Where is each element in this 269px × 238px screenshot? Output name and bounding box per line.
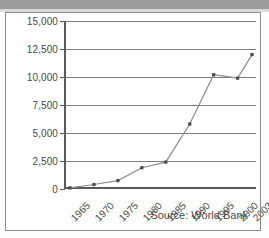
- chart-data-point: [236, 77, 239, 80]
- chart-y-tick-label: 15,000: [27, 16, 58, 27]
- chart-plot-area: 02,5005,0007,50010,00012,50015,000 19651…: [64, 21, 256, 189]
- chart-y-tick-label: 12,500: [27, 44, 58, 55]
- chart-figure-box: 02,5005,0007,50010,00012,50015,000 19651…: [5, 12, 261, 231]
- chart-y-tick-label: 0: [52, 184, 58, 195]
- chart-y-tick: [60, 189, 65, 190]
- chart-data-point: [116, 179, 119, 182]
- chart-x-tick-label: 1965: [69, 200, 93, 224]
- chart-y-tick-label: 5,000: [32, 128, 58, 139]
- chart-data-point: [140, 166, 143, 169]
- page-top-band: [0, 0, 269, 9]
- chart-data-point: [212, 73, 215, 76]
- chart-data-point: [92, 183, 95, 186]
- chart-y-tick-label: 10,000: [27, 72, 58, 83]
- chart-series-line: [70, 55, 252, 188]
- page-canvas: 02,5005,0007,50010,00012,50015,000 19651…: [0, 0, 269, 238]
- chart-source-note: Source: World Bank: [150, 209, 248, 221]
- chart-y-tick-label: 7,500: [32, 100, 58, 111]
- chart-data-point: [68, 186, 71, 189]
- chart-x-tick-label: 1975: [117, 200, 141, 224]
- chart-line-series: [64, 21, 256, 189]
- chart-data-point: [188, 122, 191, 125]
- chart-data-point: [250, 53, 253, 56]
- chart-data-point: [164, 161, 167, 164]
- chart-x-tick-label: 1970: [93, 200, 117, 224]
- chart-y-tick-label: 2,500: [32, 156, 58, 167]
